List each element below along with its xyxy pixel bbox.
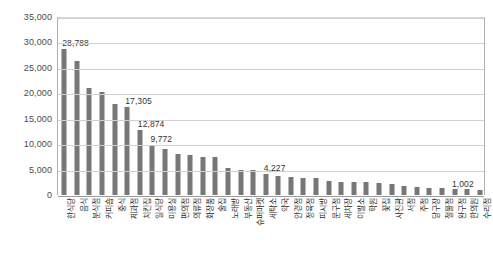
bar-slot xyxy=(272,18,285,195)
bar-slot xyxy=(108,18,121,195)
bar[interactable] xyxy=(213,157,218,195)
bar-slot xyxy=(335,18,348,195)
bar-slot xyxy=(385,18,398,195)
bar[interactable] xyxy=(465,189,470,195)
bar[interactable] xyxy=(389,184,394,195)
x-axis-label: 이발소 xyxy=(357,198,366,278)
bar-chart: 05,00010,00015,00020,00025,00030,00035,0… xyxy=(0,0,493,279)
x-axis-label: 안경점 xyxy=(294,198,303,278)
x-axis-label: 치킨집 xyxy=(143,198,152,278)
bar[interactable] xyxy=(276,176,281,195)
bar-slot xyxy=(159,18,172,195)
bar[interactable] xyxy=(251,170,256,195)
bar[interactable] xyxy=(452,189,457,195)
x-axis-label: 한식당 xyxy=(67,198,76,278)
bar[interactable] xyxy=(314,178,319,195)
bar[interactable] xyxy=(263,174,268,195)
x-axis-label: 약국 xyxy=(281,198,290,278)
bar[interactable] xyxy=(402,186,407,195)
y-tick-label: 0 xyxy=(0,191,52,200)
x-axis-label: 사진관 xyxy=(395,198,404,278)
x-axis-label: 편의점 xyxy=(181,198,190,278)
x-axis-category-labels: 한식당음식분식점커피숍중식제과점치킨집일식당미용실편의점의류점화장품술집노래방부… xyxy=(57,196,485,279)
bar[interactable] xyxy=(427,188,432,195)
y-tick-label: 10,000 xyxy=(0,140,52,149)
bar[interactable] xyxy=(301,178,306,195)
x-axis-label: 제과점 xyxy=(130,198,139,278)
x-axis-label: 피시방 xyxy=(319,198,328,278)
bar-slot xyxy=(436,18,449,195)
y-tick-label: 20,000 xyxy=(0,89,52,98)
y-tick-label: 30,000 xyxy=(0,38,52,47)
bar[interactable] xyxy=(112,104,117,195)
bar-slot xyxy=(134,18,147,195)
x-axis-label: 부동산 xyxy=(244,198,253,278)
y-axis: 05,00010,00015,00020,00025,00030,00035,0… xyxy=(0,17,52,195)
bar[interactable] xyxy=(162,149,167,195)
plot-area: 28,78817,30512,8749,7724,2271,002 xyxy=(57,17,485,195)
bar-slot xyxy=(247,18,260,195)
gridline xyxy=(58,171,484,172)
gridline xyxy=(58,120,484,121)
bar[interactable] xyxy=(414,187,419,195)
bar[interactable] xyxy=(376,183,381,195)
bar[interactable] xyxy=(351,182,356,195)
bar-slot xyxy=(121,18,134,195)
bar-slot xyxy=(360,18,373,195)
bar[interactable] xyxy=(288,177,293,195)
bar[interactable] xyxy=(74,61,79,195)
bar-slot xyxy=(473,18,486,195)
gridline xyxy=(58,18,484,19)
bar[interactable] xyxy=(87,88,92,195)
y-tick-label: 5,000 xyxy=(0,165,52,174)
x-axis-label: 노래방 xyxy=(231,198,240,278)
bar-slot xyxy=(285,18,298,195)
bar[interactable] xyxy=(339,182,344,195)
bar[interactable] xyxy=(439,188,444,195)
bar[interactable] xyxy=(200,157,205,195)
x-axis-label: 정육점 xyxy=(306,198,315,278)
x-axis-label: 학원 xyxy=(369,198,378,278)
gridline xyxy=(58,145,484,146)
bars-layer: 28,78817,30512,8749,7724,2271,002 xyxy=(58,18,484,195)
x-axis-label: 수리점 xyxy=(483,198,492,278)
x-axis-label: 완구점 xyxy=(458,198,467,278)
x-axis-label: 분식점 xyxy=(92,198,101,278)
x-axis-label: 세탁소 xyxy=(269,198,278,278)
x-axis-label: 커피숍 xyxy=(105,198,114,278)
x-axis-label: 의류점 xyxy=(193,198,202,278)
x-axis-label: 꽃집 xyxy=(382,198,391,278)
x-axis-label: 음식 xyxy=(80,198,89,278)
bar-slot xyxy=(184,18,197,195)
bar[interactable] xyxy=(238,170,243,195)
bar-slot xyxy=(222,18,235,195)
x-axis-label: 미용실 xyxy=(168,198,177,278)
x-axis-label: 당구장 xyxy=(432,198,441,278)
bar-slot xyxy=(461,18,474,195)
x-axis-label: 주점 xyxy=(420,198,429,278)
bar-data-label: 1,002 xyxy=(452,180,474,189)
gridline xyxy=(58,94,484,95)
x-axis-label: 중식 xyxy=(118,198,127,278)
bar-slot xyxy=(448,18,461,195)
bar-slot xyxy=(348,18,361,195)
bar[interactable] xyxy=(477,190,482,195)
bar[interactable] xyxy=(62,49,67,195)
bar[interactable] xyxy=(175,154,180,195)
bar[interactable] xyxy=(225,168,230,195)
bar[interactable] xyxy=(137,130,142,195)
x-axis-label: 슈퍼마켓 xyxy=(256,198,265,278)
bar-slot xyxy=(209,18,222,195)
bar-slot xyxy=(398,18,411,195)
bar-slot xyxy=(171,18,184,195)
bar-slot xyxy=(96,18,109,195)
x-axis-label: 철물점 xyxy=(445,198,454,278)
bar-slot xyxy=(71,18,84,195)
bar-slot xyxy=(322,18,335,195)
bar[interactable] xyxy=(326,181,331,195)
gridline xyxy=(58,43,484,44)
bar[interactable] xyxy=(188,155,193,195)
bar[interactable] xyxy=(364,182,369,195)
bar[interactable] xyxy=(100,92,105,195)
bar-slot xyxy=(146,18,159,195)
